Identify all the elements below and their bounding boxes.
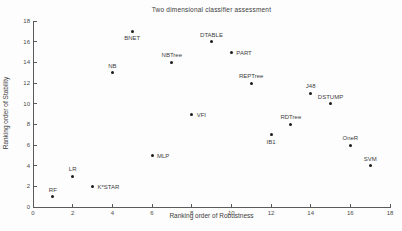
y-tick-label: 16: [14, 39, 30, 45]
scatter-plot-figure: Two dimensional classifier assessment Ra…: [0, 0, 402, 231]
data-point-label-NB: NB: [82, 63, 142, 69]
x-axis-label: Ranking order of Robustness: [33, 212, 390, 219]
x-tick: [390, 204, 391, 207]
y-tick-label: 4: [14, 163, 30, 169]
data-point-label-K*STAR: K*STAR: [98, 184, 120, 190]
y-tick-label: 6: [14, 142, 30, 148]
x-tick-label: 8: [182, 210, 202, 216]
x-tick-label: 4: [102, 210, 122, 216]
data-point-label-BNET: BNET: [102, 35, 162, 41]
x-tick: [191, 204, 192, 207]
y-tick: [34, 62, 37, 63]
data-point-label-MLP: MLP: [157, 153, 169, 159]
data-point-IB1: [270, 133, 273, 136]
y-axis-line: [33, 21, 34, 208]
x-tick-label: 10: [221, 210, 241, 216]
y-tick: [34, 145, 37, 146]
y-tick: [34, 83, 37, 84]
data-point-MLP: [151, 154, 154, 157]
data-point-DTABLE: [210, 40, 213, 43]
y-tick-label: 18: [14, 18, 30, 24]
data-point-LR: [71, 175, 74, 178]
data-point-BNET: [131, 30, 134, 33]
x-tick: [350, 204, 351, 207]
data-point-label-IB1: IB1: [241, 139, 301, 145]
y-tick: [34, 21, 37, 22]
y-tick-label: 8: [14, 121, 30, 127]
x-tick-label: 16: [340, 210, 360, 216]
data-point-label-PART: PART: [236, 50, 251, 56]
data-point-K*STAR: [91, 185, 94, 188]
chart-title: Two dimensional classifier assessment: [33, 6, 390, 13]
data-point-NB: [111, 71, 114, 74]
data-point-label-VFI: VFI: [197, 112, 206, 118]
x-tick: [152, 204, 153, 207]
data-point-label-RF: RF: [23, 187, 83, 193]
x-tick-label: 12: [261, 210, 281, 216]
x-tick: [72, 204, 73, 207]
data-point-REPTree: [250, 82, 253, 85]
data-point-label-RDTree: RDTree: [261, 114, 321, 120]
data-point-NBTree: [170, 61, 173, 64]
data-point-VFI: [190, 113, 193, 116]
data-point-label-LR: LR: [43, 166, 103, 172]
x-tick: [310, 204, 311, 207]
x-tick-label: 2: [63, 210, 83, 216]
y-tick: [34, 207, 37, 208]
x-tick-label: 6: [142, 210, 162, 216]
x-axis-line: [33, 207, 391, 208]
x-tick-label: 14: [301, 210, 321, 216]
data-point-DSTUMP: [329, 102, 332, 105]
data-point-label-DSTUMP: DSTUMP: [301, 94, 361, 100]
data-point-RDTree: [289, 123, 292, 126]
y-tick-label: 10: [14, 101, 30, 107]
y-tick-label: 14: [14, 59, 30, 65]
x-tick: [271, 204, 272, 207]
data-point-label-NBTree: NBTree: [142, 52, 202, 58]
y-tick-label: 0: [14, 204, 30, 210]
y-tick: [34, 103, 37, 104]
data-point-label-J48: J48: [281, 83, 341, 89]
data-point-OneR: [349, 144, 352, 147]
data-point-label-DTABLE: DTABLE: [182, 32, 242, 38]
data-point-PART: [230, 51, 233, 54]
y-tick: [34, 124, 37, 125]
x-tick: [112, 204, 113, 207]
data-point-label-OneR: OneR: [320, 135, 380, 141]
y-tick: [34, 41, 37, 42]
y-tick-label: 12: [14, 80, 30, 86]
data-point-label-REPTree: REPTree: [221, 73, 281, 79]
y-axis-label: Ranking order of Stability: [2, 38, 12, 188]
x-tick: [231, 204, 232, 207]
data-point-RF: [51, 195, 54, 198]
data-point-label-SVM: SVM: [340, 156, 400, 162]
y-tick: [34, 165, 37, 166]
x-tick-label: 18: [380, 210, 400, 216]
x-tick-label: 0: [23, 210, 43, 216]
data-point-SVM: [369, 164, 372, 167]
